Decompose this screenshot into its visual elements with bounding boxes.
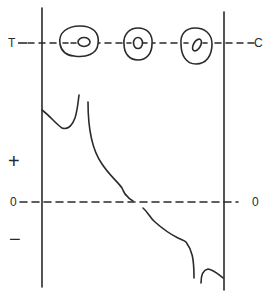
label-zero-left: 0 <box>10 195 17 209</box>
curve-segment-1 <box>42 95 79 129</box>
diagram: T C 0 0 + − <box>0 0 268 297</box>
cell-3-outline <box>181 28 212 64</box>
label-t: T <box>8 36 16 50</box>
label-zero-right: 0 <box>252 195 259 209</box>
curve-segment-3 <box>143 208 194 278</box>
label-c: C <box>254 36 263 50</box>
curve-segment-4 <box>201 269 223 283</box>
cell-1-outline <box>60 26 99 57</box>
label-minus: − <box>9 228 21 250</box>
curve-segment-2 <box>88 102 133 201</box>
cell-2-outline <box>124 28 152 60</box>
label-plus: + <box>8 150 20 172</box>
